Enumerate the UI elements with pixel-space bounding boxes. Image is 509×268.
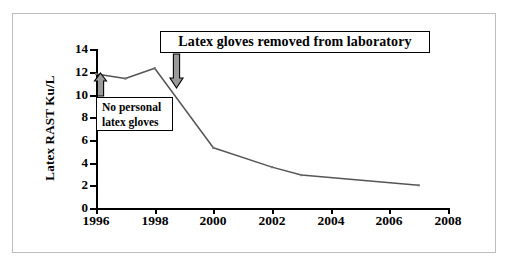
chart-figure: Latex RAST Ku/L 14 12 10 8 6 4 2 0 1996 … <box>0 0 509 268</box>
data-point <box>271 166 273 168</box>
down-arrow-icon <box>170 54 183 88</box>
up-arrow-icon <box>95 73 107 96</box>
annotation-gloves-removed: Latex gloves removed from laboratory <box>160 31 430 53</box>
data-point <box>212 147 214 149</box>
annotation-no-personal-gloves: No personal latex gloves <box>96 97 173 131</box>
annotation-no-personal-line2: latex gloves <box>102 115 172 130</box>
data-point <box>154 67 156 69</box>
data-point <box>300 174 302 176</box>
plot-area: Latex RAST Ku/L 14 12 10 8 6 4 2 0 1996 … <box>0 0 509 268</box>
data-point <box>418 184 420 186</box>
data-point <box>124 77 126 79</box>
annotation-no-personal-line1: No personal <box>102 100 172 115</box>
data-point <box>95 73 97 75</box>
